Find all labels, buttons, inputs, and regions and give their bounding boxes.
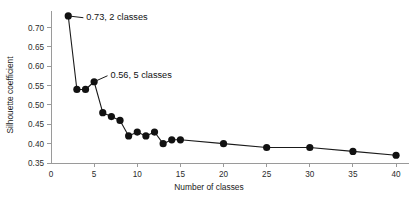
- data-point: [91, 78, 98, 85]
- data-point: [160, 140, 167, 147]
- data-point-group: [65, 12, 400, 159]
- annotation-group: 0.73, 2 classes0.56, 5 classes: [68, 12, 172, 82]
- data-point: [125, 132, 132, 139]
- x-ticks: [94, 163, 396, 167]
- y-axis-title: Silhouette coefficient: [5, 56, 15, 134]
- y-tick-label: 0.55: [28, 82, 44, 91]
- data-point: [142, 132, 149, 139]
- x-tick-label: 0: [49, 170, 54, 179]
- data-point: [263, 144, 270, 151]
- chart-canvas: 0.350.400.450.500.550.600.650.70 0510152…: [0, 0, 418, 197]
- annotation-label: 0.56, 5 classes: [111, 70, 173, 80]
- y-tick-label: 0.65: [28, 43, 44, 52]
- y-tick-label: 0.60: [28, 62, 44, 71]
- y-ticks: [47, 28, 51, 163]
- data-point: [392, 152, 399, 159]
- y-axis: 0.350.400.450.500.550.600.650.70: [28, 11, 51, 168]
- data-point: [306, 144, 313, 151]
- x-axis-title: Number of classes: [174, 182, 243, 192]
- silhouette-coefficient-chart: 0.350.400.450.500.550.600.650.70 0510152…: [0, 0, 418, 197]
- data-point: [349, 148, 356, 155]
- x-tick-label: 25: [262, 170, 272, 179]
- data-point: [220, 140, 227, 147]
- x-tick-label: 15: [176, 170, 186, 179]
- x-tick-label: 35: [348, 170, 358, 179]
- data-point: [168, 136, 175, 143]
- data-point: [134, 128, 141, 135]
- data-point: [73, 86, 80, 93]
- data-point: [108, 113, 115, 120]
- annotation-label: 0.73, 2 classes: [86, 12, 148, 22]
- x-tick-label: 10: [133, 170, 143, 179]
- data-point: [151, 128, 158, 135]
- series-group: [65, 12, 400, 159]
- y-tick-label: 0.35: [28, 159, 44, 168]
- x-tick-label: 30: [305, 170, 315, 179]
- x-tick-label: 20: [219, 170, 229, 179]
- x-tick-label: 40: [392, 170, 402, 179]
- series-line-silhouette: [68, 16, 396, 155]
- x-tick-labels: 0510152025303540: [49, 170, 401, 179]
- y-tick-label: 0.70: [28, 24, 44, 33]
- data-point: [99, 109, 106, 116]
- data-point: [116, 117, 123, 124]
- y-tick-label: 0.40: [28, 140, 44, 149]
- x-tick-label: 5: [92, 170, 97, 179]
- x-axis: 0510152025303540: [49, 163, 409, 179]
- y-tick-label: 0.45: [28, 120, 44, 129]
- data-point: [177, 136, 184, 143]
- y-tick-label: 0.50: [28, 101, 44, 110]
- y-tick-labels: 0.350.400.450.500.550.600.650.70: [28, 24, 44, 168]
- data-point: [82, 86, 89, 93]
